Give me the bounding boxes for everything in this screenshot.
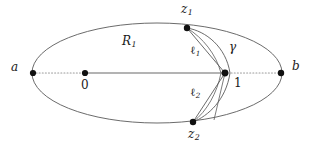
label-z2-base: z (188, 127, 194, 141)
label-z2-sub: 2 (195, 133, 200, 142)
label-l2-sub: 2 (196, 91, 201, 100)
label-z1: z1 (181, 3, 193, 17)
label-l2-base: ℓ (190, 86, 195, 99)
label-l1-sub: 1 (196, 49, 201, 58)
figure-canvas: a 0 1 b z1 z2 R1 ℓ1 ℓ2 γ (0, 0, 312, 143)
label-a: a (11, 61, 18, 73)
label-z1-base: z (181, 2, 187, 16)
label-zero: 0 (81, 79, 89, 91)
point-1 (222, 70, 229, 77)
point-0 (82, 70, 88, 76)
label-R1: R1 (122, 35, 136, 49)
label-R1-base: R (122, 34, 131, 48)
label-z1-sub: 1 (188, 8, 193, 17)
point-z2 (190, 119, 196, 125)
point-z1 (184, 25, 190, 31)
label-l1-base: ℓ (190, 44, 195, 57)
label-l2: ℓ2 (190, 87, 200, 99)
label-z2: z2 (188, 128, 200, 142)
label-l1: ℓ1 (190, 45, 200, 57)
point-a (30, 70, 36, 76)
label-one: 1 (234, 77, 242, 89)
diagram-svg (0, 0, 312, 143)
label-R1-sub: 1 (131, 40, 136, 49)
point-b (278, 70, 284, 76)
label-b: b (292, 60, 300, 72)
label-gamma: γ (229, 41, 236, 53)
